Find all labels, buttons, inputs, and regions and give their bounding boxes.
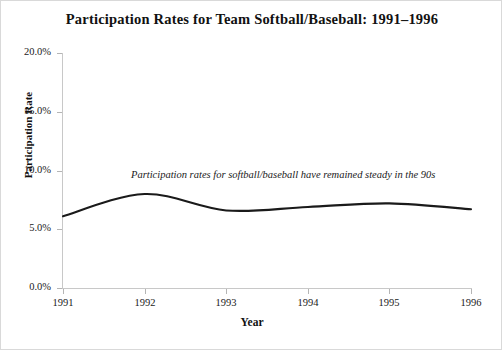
chart-title: Participation Rates for Team Softball/Ba… [1, 11, 502, 28]
x-tick-label-1991: 1991 [33, 297, 93, 308]
x-tick-mark-1991 [63, 289, 64, 294]
chart-annotation: Participation rates for softball/basebal… [131, 169, 435, 180]
x-tick-mark-1996 [471, 289, 472, 294]
y-tick-mark-5 [57, 229, 62, 230]
y-tick-mark-15 [57, 112, 62, 113]
x-tick-mark-1994 [308, 289, 309, 294]
y-axis-line [62, 53, 63, 289]
y-tick-mark-10 [57, 171, 62, 172]
x-tick-label-1996: 1996 [441, 297, 501, 308]
x-tick-mark-1995 [389, 289, 390, 294]
x-tick-label-1994: 1994 [278, 297, 338, 308]
y-tick-mark-20 [57, 53, 62, 54]
y-tick-label-20: 20.0% [0, 46, 51, 57]
y-axis-title: Participation Rate [22, 70, 34, 200]
x-tick-mark-1993 [226, 289, 227, 294]
x-tick-label-1993: 1993 [196, 297, 256, 308]
y-tick-mark-0 [57, 288, 62, 289]
x-tick-mark-1992 [145, 289, 146, 294]
y-tick-label-5: 5.0% [0, 222, 51, 233]
chart-figure: Participation Rates for Team Softball/Ba… [0, 0, 502, 350]
x-tick-label-1995: 1995 [359, 297, 419, 308]
y-tick-label-0: 0.0% [0, 281, 51, 292]
x-axis-title: Year [1, 316, 502, 328]
x-axis-line [62, 288, 472, 289]
x-tick-label-1992: 1992 [115, 297, 175, 308]
